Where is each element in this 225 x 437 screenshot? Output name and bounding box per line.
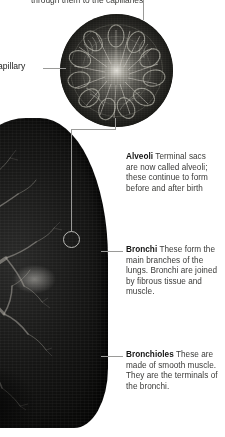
leader-line-bronchi	[101, 251, 123, 252]
callout-bronchi: Bronchi These form the main branches of …	[126, 245, 218, 298]
callout-alveoli-term: Alveoli	[126, 152, 153, 161]
inset-circle	[60, 14, 173, 127]
callout-bronchioles: Bronchioles These are made of smooth mus…	[126, 350, 218, 392]
lung-photograph	[0, 118, 108, 428]
leader-line-alveoli-vertical	[71, 129, 72, 232]
alveoli-location-marker	[63, 231, 80, 248]
alveoli-micrograph-inset	[60, 14, 173, 127]
figure-page: through them to the capillaries	[0, 0, 225, 437]
bronchial-tree-icon	[0, 118, 108, 428]
leader-line-capillary	[43, 68, 66, 69]
alveoli-structure-icon	[60, 14, 173, 127]
capillary-label: apillary	[0, 61, 25, 71]
top-caption-fragment: through them to the capillaries	[31, 0, 191, 5]
leader-line-bronchioles	[101, 356, 123, 357]
callout-bronchioles-term: Bronchioles	[126, 350, 174, 359]
callout-alveoli: Alveoli Terminal sacs are now called alv…	[126, 152, 218, 194]
leader-line-alveoli-horizontal	[71, 129, 115, 130]
leader-line-alveoli-elbow	[115, 118, 116, 130]
callout-bronchi-term: Bronchi	[126, 245, 157, 254]
